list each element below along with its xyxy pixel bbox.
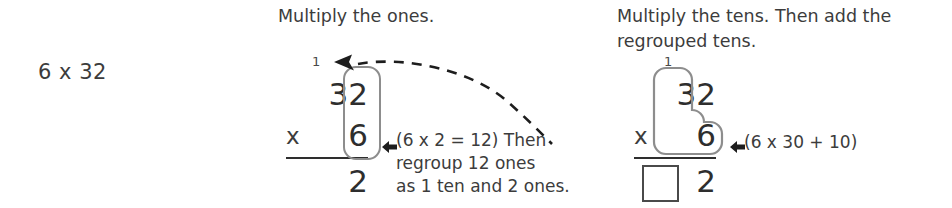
step-2-multiplication-block: 1 32 x 6 2: [634, 52, 754, 203]
step-1-multiplication-sign: x: [286, 114, 300, 158]
step-2-carry-digit: 1: [664, 54, 672, 70]
step-2-answer-row: 2: [634, 159, 716, 203]
step-1-carry-digit: 1: [312, 54, 320, 70]
regroup-dashed-curved-arrow-icon: [330, 52, 565, 151]
step-2-answer-blank-box[interactable]: [642, 165, 679, 202]
step-2-carry-row: 1: [634, 52, 754, 74]
step-2-operator-row: x 6: [634, 114, 716, 156]
problem-label: 6 x 32: [38, 60, 107, 84]
step-2-answer-digit: 2: [696, 163, 716, 199]
step-2-heading: Multiply the tens. Then add the regroupe…: [617, 4, 947, 54]
step-1-answer: 2: [286, 159, 368, 203]
step-2-multiplication-sign: x: [634, 114, 648, 158]
step-2-top-number: 32: [634, 74, 716, 114]
step-1-heading: Multiply the ones.: [278, 4, 434, 29]
step-2-annotation: (6 x 30 + 10): [744, 131, 857, 154]
